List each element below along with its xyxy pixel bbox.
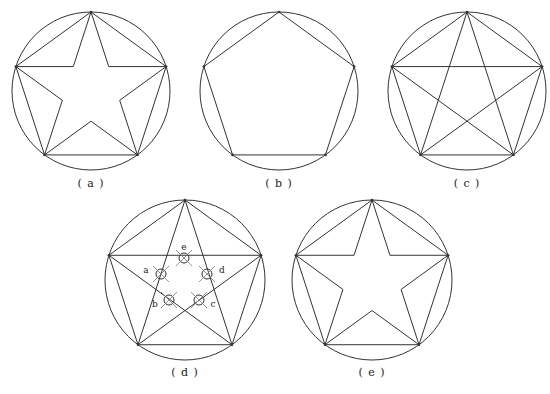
vertex-dot [324,343,327,346]
vertex-dot [43,154,46,157]
marker-label-d: d [219,265,225,275]
vertex-dot [418,343,421,346]
circle-a [12,12,170,170]
pentagon-b [204,12,354,155]
marker-label-a: a [143,265,149,275]
vertex-dot [419,154,422,157]
marker-label-c: c [210,299,215,309]
vertex-dot [324,154,327,157]
vertex-dot [512,154,515,157]
figure-label-d: ( d ) [171,366,199,379]
circle-d [105,200,265,360]
vertex-dot [203,65,206,68]
vertex-dot [137,343,140,346]
star-e [296,200,448,345]
vertex-dot [278,11,281,14]
vertex-dot [231,343,234,346]
vertex-dot [231,154,234,157]
vertex-dot [541,65,544,68]
circle-c [388,12,546,170]
circle-b [200,12,358,170]
vertex-dot [447,254,450,257]
vertex-dot [295,254,298,257]
vertex-dot [184,199,187,202]
vertex-dot [165,65,168,68]
figure-label-b: ( b ) [265,177,293,190]
vertex-dot [90,11,93,14]
figure-label-e: ( e ) [358,366,385,379]
vertex-dot [466,11,469,14]
vertex-dot [260,254,263,257]
vertex-dot [391,65,394,68]
diagram-canvas: eadbc [0,0,550,394]
vertex-dot [136,154,139,157]
marker-label-e: e [181,242,186,252]
pentagram-c [392,12,542,155]
figure-label-c: ( c ) [454,177,481,190]
vertex-dot [108,254,111,257]
vertex-dot [353,65,356,68]
marker-label-b: b [152,299,158,309]
pentagram-d [109,200,261,345]
figure-label-a: ( a ) [77,177,104,190]
circle-e [292,200,452,360]
vertex-dot [371,199,374,202]
star-a [16,12,166,155]
vertex-dot [15,65,18,68]
